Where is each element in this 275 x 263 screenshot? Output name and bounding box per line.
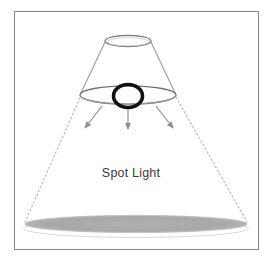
top-ellipse	[105, 35, 151, 46]
spot-light-caption: Spot Light	[102, 166, 161, 180]
outer-border	[15, 12, 259, 250]
spot-light-figure: Spot Light	[0, 0, 275, 263]
light-pool-ellipse	[25, 215, 247, 232]
spot-light-diagram: Spot Light	[0, 0, 275, 263]
